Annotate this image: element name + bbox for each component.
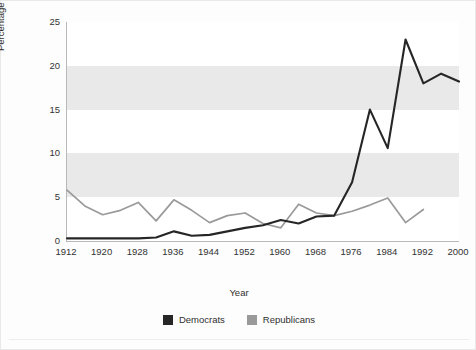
legend-item-republicans: Republicans: [247, 315, 315, 325]
series-container: [67, 22, 459, 241]
x-axis-tick-label: 2000: [435, 247, 476, 257]
legend-divider: [9, 339, 469, 340]
republicans-line: [67, 190, 423, 228]
chart-legend: Democrats Republicans: [1, 315, 476, 325]
y-axis-tick-label: 5: [20, 192, 60, 202]
legend-label-democrats: Democrats: [179, 315, 225, 325]
y-axis-title: Percentage of Black Delegates: [0, 0, 6, 51]
y-axis-tick-label: 0: [20, 236, 60, 246]
y-axis-tick-label: 10: [20, 148, 60, 158]
legend-label-republicans: Republicans: [263, 315, 315, 325]
chart-figure: Percentage of Black Delegates 0510152025…: [0, 0, 476, 350]
x-axis-title: Year: [1, 287, 476, 298]
y-axis-tick-label: 20: [20, 61, 60, 71]
plot-area: [66, 22, 459, 242]
legend-swatch-republicans: [247, 315, 257, 325]
legend-item-democrats: Democrats: [163, 315, 225, 325]
y-axis-tick-label: 25: [20, 17, 60, 27]
legend-swatch-democrats: [163, 315, 173, 325]
y-axis-tick-label: 15: [20, 105, 60, 115]
